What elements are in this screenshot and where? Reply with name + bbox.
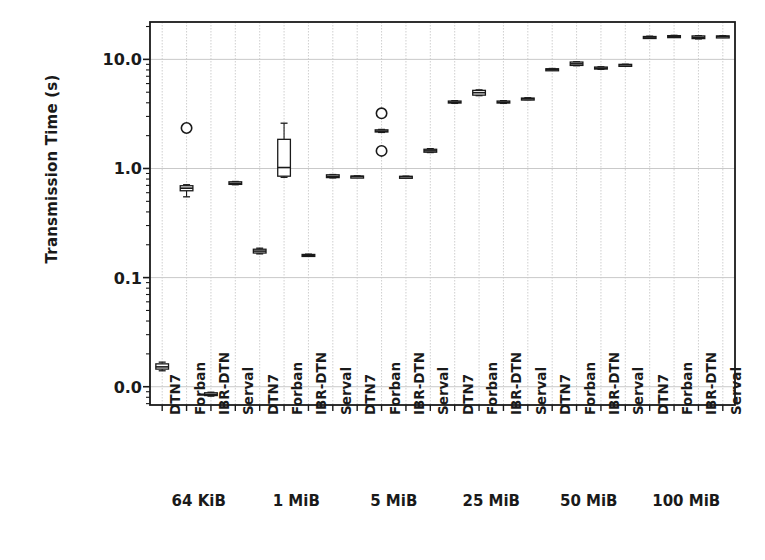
group-label-1-MiB: 1 MiB bbox=[273, 492, 320, 510]
chart-figure: Transmission Time (s) 10.01.00.10.0 DTN7… bbox=[0, 0, 765, 560]
group-label-25-MiB: 25 MiB bbox=[462, 492, 520, 510]
group-label-100-MiB: 100 MiB bbox=[652, 492, 720, 510]
x-axis-group-labels: 64 KiB1 MiB5 MiB25 MiB50 MiB100 MiB bbox=[0, 0, 765, 560]
group-label-64-KiB: 64 KiB bbox=[172, 492, 226, 510]
group-label-50-MiB: 50 MiB bbox=[560, 492, 618, 510]
group-label-5-MiB: 5 MiB bbox=[370, 492, 417, 510]
